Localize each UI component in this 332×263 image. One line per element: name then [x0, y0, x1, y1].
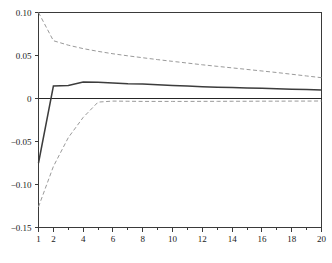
x-tick-label: 20 [317, 234, 327, 244]
x-tick-label: 6 [111, 234, 116, 244]
point-estimate-line [39, 82, 322, 163]
x-tick-label: 12 [198, 234, 207, 244]
impulse-response-chart: 0.100.050−0.05−0.10−0.15 124681012141618… [0, 0, 332, 263]
x-tick-label: 16 [257, 234, 267, 244]
y-tick-label: 0 [27, 94, 32, 104]
x-axis-tick-labels: 12468101214161820 [36, 234, 326, 244]
x-tick-label: 10 [168, 234, 178, 244]
y-tick-label: 0.05 [16, 51, 32, 61]
y-tick-label: 0.10 [16, 8, 32, 18]
x-tick-label: 1 [36, 234, 41, 244]
upper-confidence-band-line [39, 13, 322, 78]
y-tick-label: −0.15 [11, 223, 32, 233]
y-axis-tick-labels: 0.100.050−0.05−0.10−0.15 [11, 8, 32, 233]
axis-frame [39, 13, 322, 228]
x-tick-label: 18 [287, 234, 297, 244]
y-tick-label: −0.05 [11, 137, 32, 147]
x-tick-label: 2 [51, 234, 56, 244]
plot-frame [39, 13, 322, 228]
y-tick-label: −0.10 [11, 180, 32, 190]
x-tick-label: 8 [141, 234, 146, 244]
x-tick-label: 14 [228, 234, 238, 244]
chart-container: 0.100.050−0.05−0.10−0.15 124681012141618… [0, 0, 332, 263]
lower-confidence-band-line [39, 101, 322, 207]
x-tick-label: 4 [81, 234, 86, 244]
